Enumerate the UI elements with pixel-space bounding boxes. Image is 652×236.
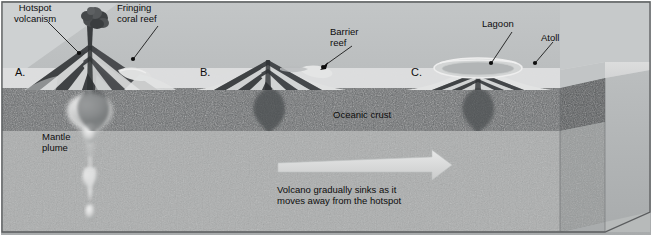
leader-dot-lagoon (489, 61, 493, 65)
label-fringing-coral-reef: Fringing coral reef (117, 3, 157, 24)
label-lagoon: Lagoon (482, 19, 514, 30)
label-oceanic-crust: Oceanic crust (333, 110, 391, 121)
stage-label-a: A. (15, 67, 25, 78)
label-mantle-plume: Mantle plume (42, 132, 71, 153)
label-barrier-reef: Barrier reef (330, 27, 359, 48)
plume-blob-4 (85, 204, 95, 220)
caption-subsidence: Volcano gradually sinks as it moves away… (277, 184, 401, 206)
volcano-b-conduit (265, 60, 271, 90)
stage-label-c: C. (411, 67, 422, 78)
diagram-canvas: Hotspot volcanism Fringing coral reef Ba… (0, 0, 652, 236)
leader-dot-fringing (131, 57, 135, 61)
label-hotspot-volcanism: Hotspot volcanism (14, 3, 56, 24)
leader-dot-hotspot (77, 51, 81, 55)
stage-label-b: B. (200, 67, 210, 78)
volcano-a-conduit (87, 44, 93, 90)
label-atoll: Atoll (541, 33, 559, 44)
leader-dot-atoll (533, 61, 537, 65)
